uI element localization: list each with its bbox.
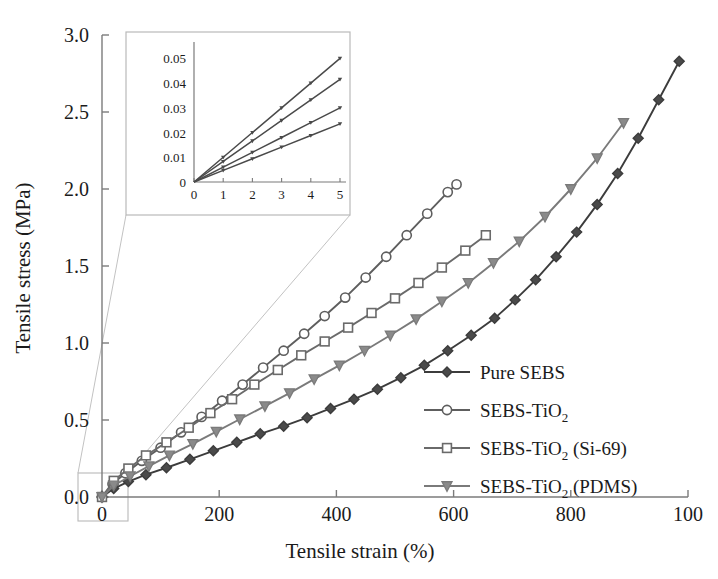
data-point-marker [452, 180, 461, 189]
data-point-marker [443, 444, 452, 453]
data-point-marker [300, 329, 309, 338]
data-point-marker [437, 263, 446, 272]
legend-label-1: Pure SEBS [480, 362, 565, 383]
x-tick-labels: 0200400600800100 [97, 503, 703, 525]
x-tick-label: 600 [439, 503, 469, 525]
data-point-marker [142, 451, 151, 460]
inset-y-tick-label: 0 [180, 175, 187, 190]
data-point-marker [341, 293, 350, 302]
data-point-marker [344, 323, 353, 332]
data-point-marker [285, 389, 295, 399]
data-point-marker [633, 133, 643, 143]
data-point-marker [613, 169, 623, 179]
data-point-marker [437, 297, 447, 307]
legend-item-3[interactable]: SEBS-TiO2 (Si-69) [424, 438, 627, 463]
inset-y-tick-label: 0.05 [163, 51, 186, 66]
inset-y-tick-label: 0.02 [163, 126, 186, 141]
legend: Pure SEBSSEBS-TiO2SEBS-TiO2 (Si-69)SEBS-… [424, 362, 637, 501]
data-point-marker [391, 294, 400, 303]
legend-label-2: SEBS-TiO2 [480, 400, 568, 425]
legend-item-1[interactable]: Pure SEBS [424, 362, 565, 383]
data-point-marker [211, 427, 221, 437]
data-point-marker [185, 454, 195, 464]
inset-y-tick-label: 0.01 [163, 150, 186, 165]
legend-item-2[interactable]: SEBS-TiO2 [424, 400, 568, 425]
inset-connector-2 [128, 215, 350, 473]
y-tick-label: 2.0 [64, 178, 89, 200]
data-point-marker [367, 309, 376, 318]
x-tick-label: 100 [673, 503, 703, 525]
data-point-marker [443, 187, 452, 196]
inset-plot: 01234500.010.020.030.040.05 [126, 32, 350, 215]
data-point-marker [385, 331, 395, 341]
inset-frame [126, 32, 350, 215]
y-tick-label: 1.5 [64, 255, 89, 277]
inset-y-tick-label: 0.03 [163, 101, 186, 116]
data-point-marker [463, 279, 473, 289]
data-point-marker [235, 415, 245, 425]
data-point-marker [414, 279, 423, 288]
data-point-marker [443, 346, 453, 356]
data-point-marker [161, 463, 171, 473]
data-point-marker [423, 209, 432, 218]
x-tick-label: 800 [556, 503, 586, 525]
y-axis-title: Tensile stress (MPa) [11, 182, 35, 353]
inset-x-tick-label: 2 [249, 187, 256, 202]
data-point-marker [260, 402, 270, 412]
data-point-marker [188, 440, 198, 450]
data-point-marker [674, 56, 684, 66]
y-tick-label: 1.0 [64, 332, 89, 354]
x-axis-title: Tensile strain (%) [286, 539, 435, 563]
data-point-marker [320, 311, 329, 320]
inset-x-tick-label: 5 [337, 187, 344, 202]
x-tick-label: 200 [204, 503, 234, 525]
inset-x-tick-label: 4 [308, 187, 315, 202]
data-point-marker [654, 95, 664, 105]
data-point-marker [297, 351, 306, 360]
data-point-marker [184, 423, 193, 432]
x-tick-label: 400 [321, 503, 351, 525]
y-tick-label: 0.0 [64, 486, 89, 508]
data-point-marker [442, 367, 452, 377]
data-point-marker [255, 429, 265, 439]
y-tick-label: 0.5 [64, 409, 89, 431]
data-point-marker [419, 360, 429, 370]
legend-label-3: SEBS-TiO2 (Si-69) [480, 438, 627, 463]
data-point-marker [238, 380, 247, 389]
data-point-marker [326, 403, 336, 413]
data-point-marker [309, 375, 319, 385]
data-point-marker [250, 380, 259, 389]
y-tick-label: 2.5 [64, 101, 89, 123]
data-point-marker [164, 451, 174, 461]
data-point-marker [360, 346, 370, 356]
data-point-marker [442, 405, 451, 414]
data-point-marker [481, 231, 490, 240]
inset-x-tick-label: 3 [278, 187, 285, 202]
data-point-marker [396, 373, 406, 383]
series-3 [98, 231, 491, 502]
y-tick-label: 3.0 [64, 24, 89, 46]
series-2 [97, 180, 461, 502]
inset-connector-lines [78, 215, 350, 473]
data-point-marker [461, 246, 470, 255]
data-point-marker [402, 231, 411, 240]
data-point-marker [228, 395, 237, 404]
inset-y-tick-label: 0.04 [163, 76, 186, 91]
data-point-marker [372, 384, 382, 394]
data-point-marker [279, 421, 289, 431]
data-point-marker [302, 413, 312, 423]
data-point-marker [334, 361, 344, 371]
data-point-marker [259, 363, 268, 372]
data-point-marker [162, 438, 171, 447]
data-point-marker [279, 346, 288, 355]
tensile-stress-strain-figure: 0.00.51.01.52.02.53.0 0200400600800100 0… [0, 0, 718, 579]
data-point-marker [232, 437, 242, 447]
x-tick-label: 0 [97, 503, 107, 525]
data-point-marker [206, 409, 215, 418]
plot-canvas: 0.00.51.01.52.02.53.0 0200400600800100 0… [0, 0, 718, 579]
inset-x-tick-label: 1 [220, 187, 227, 202]
data-point-marker [320, 337, 329, 346]
data-point-marker [349, 394, 359, 404]
data-point-marker [208, 446, 218, 456]
inset-x-tick-label: 0 [191, 187, 198, 202]
